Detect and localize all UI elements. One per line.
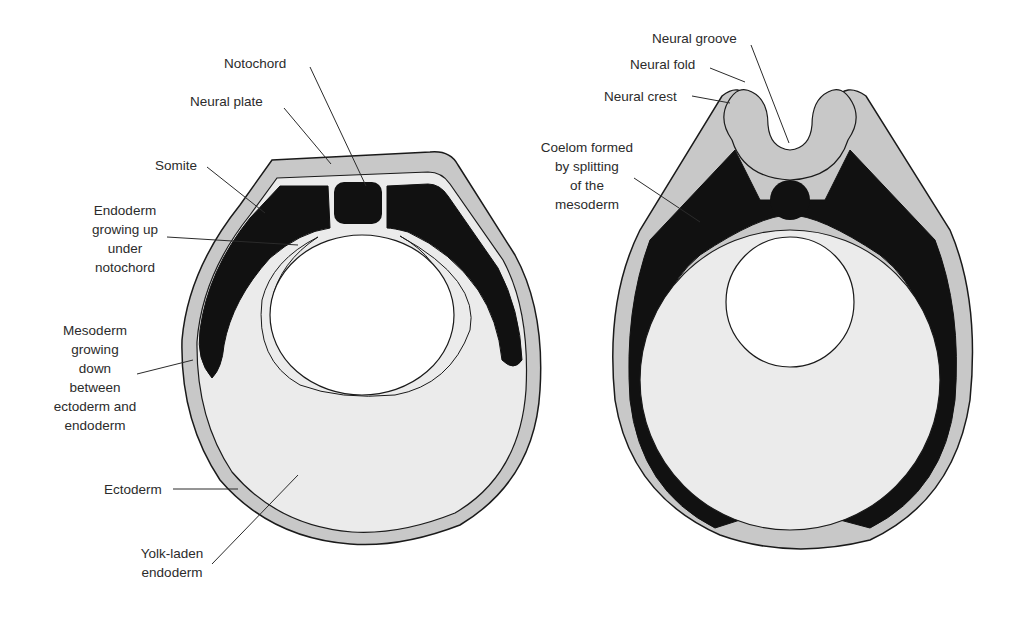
label-line: endoderm — [45, 416, 145, 435]
label-neural-groove: Neural groove — [652, 29, 737, 48]
label-somite: Somite — [155, 156, 197, 175]
left-notochord — [334, 182, 382, 224]
label-endoderm-growing-up: Endoderm growing up under notochord — [80, 201, 170, 277]
right-cavity — [726, 237, 854, 367]
label-notochord: Notochord — [224, 54, 286, 73]
label-line: growing up — [80, 220, 170, 239]
label-line: Mesoderm — [45, 321, 145, 340]
label-line: mesoderm — [530, 195, 644, 214]
label-line: of the — [530, 176, 644, 195]
right-embryo-diagram — [613, 90, 973, 549]
label-mesoderm-growing-down: Mesoderm growing down between ectoderm a… — [45, 321, 145, 435]
label-line: Endoderm — [80, 201, 170, 220]
label-neural-plate: Neural plate — [190, 92, 263, 111]
label-line: notochord — [80, 258, 170, 277]
label-line: endoderm — [130, 563, 214, 582]
label-line: Coelom formed — [530, 138, 644, 157]
label-line: Yolk-laden — [130, 544, 214, 563]
label-line: between — [45, 378, 145, 397]
label-line: under — [80, 239, 170, 258]
label-neural-crest: Neural crest — [604, 87, 677, 106]
label-line: ectoderm and — [45, 397, 145, 416]
embryo-cross-section-figure: Notochord Neural plate Somite Endoderm g… — [0, 0, 1025, 623]
label-coelom: Coelom formed by splitting of the mesode… — [530, 138, 644, 214]
label-line: down — [45, 359, 145, 378]
left-cavity — [270, 235, 454, 395]
left-embryo-diagram — [182, 152, 541, 545]
label-line: growing — [45, 340, 145, 359]
right-notochord — [770, 180, 810, 220]
label-yolk-laden-endoderm: Yolk-laden endoderm — [130, 544, 214, 582]
label-line: by splitting — [530, 157, 644, 176]
label-neural-fold: Neural fold — [630, 55, 695, 74]
label-ectoderm: Ectoderm — [104, 480, 162, 499]
